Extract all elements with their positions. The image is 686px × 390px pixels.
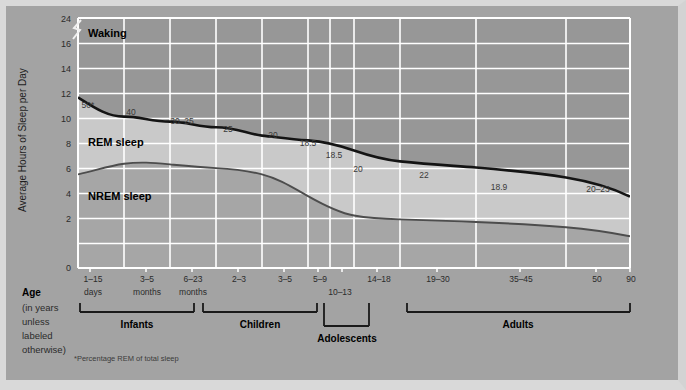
chart-screenshot: 24 16 14 12 10 8 6 4 2 0 Average Hours o… — [0, 0, 686, 390]
x-tick-7-line1: 14–18 — [367, 274, 391, 284]
x-tick-11-line1: 90 — [626, 274, 636, 284]
data-label-7: 20 — [353, 164, 363, 174]
group-bracket-adolescents — [324, 303, 369, 326]
y-tick-4: 4 — [66, 189, 71, 199]
y-tick-2: 2 — [66, 214, 71, 224]
x-tick-0-line1: 1–15 — [84, 274, 103, 284]
data-label-1: 40 — [126, 107, 136, 117]
x-tick-3-line1: 2–3 — [232, 274, 246, 284]
y-axis-title: Average Hours of Sleep per Day — [17, 68, 28, 212]
x-tick-6-line1: 10–13 — [328, 287, 352, 297]
band-label-rem: REM sleep — [88, 136, 144, 148]
y-tick-16: 16 — [61, 39, 71, 49]
x-tick-9-line1: 35–45 — [509, 274, 533, 284]
age-axis-title: Age — [22, 287, 41, 298]
data-label-3: 25 — [223, 124, 233, 134]
age-caption-line2: unless — [22, 316, 50, 327]
x-tick-0-line2: days — [84, 287, 102, 297]
band-label-nrem: NREM sleep — [88, 190, 152, 202]
data-label-8: 22 — [419, 170, 429, 180]
group-bracket-adults — [407, 303, 630, 312]
group-label-infants: Infants — [121, 319, 154, 330]
y-tick-24: 24 — [61, 14, 71, 24]
x-tick-5-line1: 5–9 — [313, 274, 327, 284]
y-tick-10: 10 — [61, 114, 71, 124]
data-label-0: 50* — [82, 100, 95, 110]
data-label-10: 20–23 — [586, 184, 610, 194]
y-tick-12: 12 — [61, 89, 71, 99]
footnote: *Percentage REM of total sleep — [74, 354, 179, 363]
group-label-adolescents: Adolescents — [317, 333, 377, 344]
y-tick-6: 6 — [66, 164, 71, 174]
data-label-6: 18.5 — [326, 150, 343, 160]
chart-canvas: 24 16 14 12 10 8 6 4 2 0 Average Hours o… — [0, 0, 686, 390]
age-caption-line1: (in years — [22, 302, 59, 313]
y-tick-14: 14 — [61, 64, 71, 74]
age-caption-line3: labeled — [22, 330, 53, 341]
data-label-5: 18.5 — [300, 138, 317, 148]
x-tick-1-line2: months — [133, 287, 161, 297]
data-label-4: 20 — [268, 130, 278, 140]
x-tick-8-line1: 19–30 — [426, 274, 450, 284]
x-tick-10-line1: 50 — [592, 274, 602, 284]
group-label-adults: Adults — [502, 319, 534, 330]
data-label-2: 30–25 — [170, 116, 194, 126]
x-tick-2-line1: 6–23 — [184, 274, 203, 284]
group-bracket-infants — [80, 303, 194, 312]
x-tick-1-line1: 3–5 — [140, 274, 154, 284]
group-label-children: Children — [240, 319, 281, 330]
y-tick-0: 0 — [66, 263, 71, 273]
band-label-waking: Waking — [88, 27, 127, 39]
sleep-chart-svg: 24 16 14 12 10 8 6 4 2 0 Average Hours o… — [0, 0, 686, 390]
group-bracket-children — [203, 303, 317, 312]
data-label-9: 18.9 — [491, 182, 508, 192]
age-caption-line4: otherwise) — [22, 344, 66, 355]
x-tick-4-line1: 3–5 — [278, 274, 292, 284]
y-tick-8: 8 — [66, 139, 71, 149]
x-tick-2-line2: months — [179, 287, 207, 297]
